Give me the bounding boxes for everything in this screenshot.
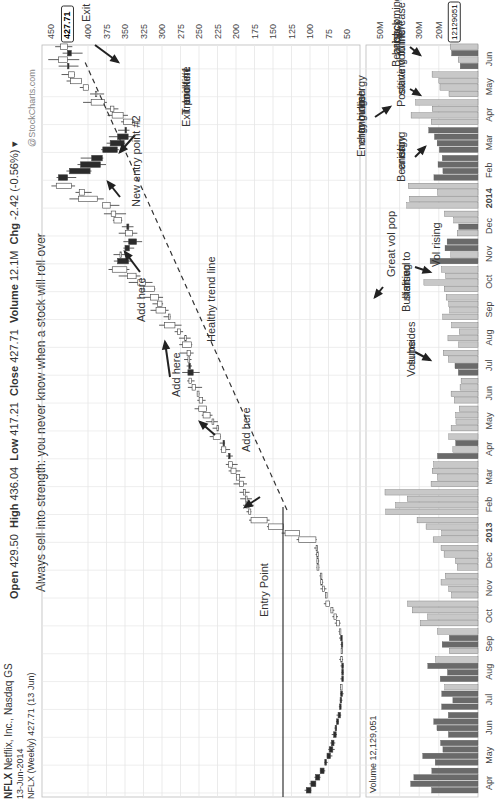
svg-text:30M: 30M: [414, 21, 424, 39]
svg-text:Great vol pop: Great vol pop: [385, 211, 397, 277]
axes: 4504003753503253002752502252001751501251…: [46, 2, 494, 793]
svg-text:427.71: 427.71: [62, 11, 72, 39]
svg-text:Dec: Dec: [484, 552, 494, 569]
svg-text:2014: 2014: [484, 188, 494, 208]
svg-text:Add here: Add here: [240, 407, 252, 452]
svg-text:Nov: Nov: [484, 245, 494, 262]
svg-text:Jun: Jun: [484, 720, 494, 735]
svg-text:Healthy trend line: Healthy trend line: [205, 256, 217, 342]
svg-text:2013: 2013: [484, 522, 494, 542]
svg-text:50: 50: [342, 29, 352, 39]
svg-text:250: 250: [194, 24, 204, 39]
svg-text:back: back: [390, 19, 402, 43]
svg-text:400: 400: [83, 24, 93, 39]
svg-text:100: 100: [305, 24, 315, 39]
svg-text:Feb: Feb: [484, 163, 494, 179]
svg-text:375: 375: [102, 24, 112, 39]
svg-text:75: 75: [324, 29, 334, 39]
svg-text:Apr: Apr: [484, 108, 494, 122]
price-volume-chart: 4504003753503253002752502252001751501251…: [0, 0, 503, 807]
svg-text:50M: 50M: [375, 21, 385, 39]
svg-text:Oct: Oct: [484, 608, 494, 623]
svg-text:New entry point #2: New entry point #2: [130, 115, 142, 207]
svg-text:275: 275: [176, 24, 186, 39]
svg-text:broken: broken: [180, 69, 192, 103]
svg-text:175: 175: [250, 24, 260, 39]
svg-text:Mar: Mar: [484, 135, 494, 151]
grid: [42, 45, 478, 797]
svg-text:Jul: Jul: [484, 694, 494, 706]
svg-text:rising: rising: [395, 132, 407, 158]
svg-text:Vol rising: Vol rising: [430, 222, 442, 267]
svg-text:Aug: Aug: [484, 329, 494, 345]
trend-line: [85, 62, 287, 510]
svg-text:200: 200: [231, 24, 241, 39]
svg-text:Feb: Feb: [484, 497, 494, 513]
svg-text:125: 125: [287, 24, 297, 39]
svg-text:Apr: Apr: [484, 442, 494, 456]
svg-text:350: 350: [120, 24, 130, 39]
svg-text:Jun: Jun: [484, 52, 494, 67]
svg-text:rise: rise: [400, 270, 412, 288]
svg-text:300: 300: [157, 24, 167, 39]
svg-text:May: May: [484, 412, 494, 430]
svg-text:Apr: Apr: [484, 776, 494, 790]
svg-text:Jul: Jul: [484, 360, 494, 372]
svg-text:Dec: Dec: [484, 218, 494, 235]
svg-text:Sep: Sep: [484, 302, 494, 318]
svg-text:May: May: [484, 746, 494, 764]
svg-text:Entry Point: Entry Point: [258, 563, 270, 617]
svg-text:May: May: [484, 78, 494, 96]
chart-root: NFLX Netflix, Inc., Nasdaq GS 13-Jun-201…: [0, 0, 503, 807]
svg-text:Jun: Jun: [484, 386, 494, 401]
svg-text:Add here: Add here: [135, 277, 147, 322]
svg-text:Aug: Aug: [484, 664, 494, 680]
svg-text:Sep: Sep: [484, 636, 494, 652]
svg-text:Oct: Oct: [484, 274, 494, 289]
svg-text:20M: 20M: [434, 21, 444, 39]
svg-text:Mar: Mar: [484, 469, 494, 485]
svg-text:325: 325: [139, 24, 149, 39]
price-candles: [48, 44, 344, 793]
svg-text:150: 150: [268, 24, 278, 39]
svg-text:subsides: subsides: [405, 321, 417, 365]
svg-text:Add here: Add here: [170, 352, 182, 397]
svg-text:225: 225: [213, 24, 223, 39]
svg-text:energy: energy: [355, 75, 367, 109]
svg-text:12129051: 12129051: [450, 4, 459, 40]
annotation-labels: Entry PointAdd hereAdd hereAdd hereHealt…: [80, 0, 442, 617]
svg-text:Volume 12,129,051: Volume 12,129,051: [368, 715, 378, 793]
svg-text:Nov: Nov: [484, 580, 494, 597]
svg-text:450: 450: [46, 24, 56, 39]
svg-text:Exit point #2: Exit point #2: [80, 0, 92, 22]
